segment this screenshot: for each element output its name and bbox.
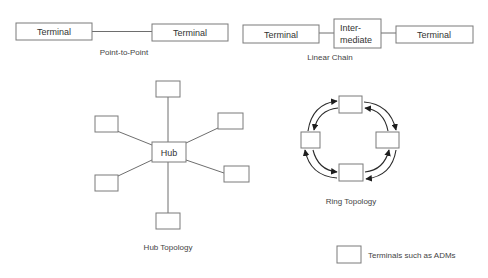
ring-arrow-inner-bl xyxy=(313,150,337,172)
hub-spoke-lower-right xyxy=(186,160,224,173)
ring-arrow-outer-bl xyxy=(305,150,337,178)
ring-topology-group: Ring Topology xyxy=(301,96,399,206)
hub-terminal-upper-left xyxy=(95,116,118,132)
p2p-terminal-b-label: Terminal xyxy=(173,28,207,38)
ring-arrow-inner-br xyxy=(365,150,389,172)
hub-terminal-bottom xyxy=(156,213,180,229)
hub-terminal-lower-right xyxy=(224,166,249,182)
ring-node-bottom xyxy=(339,164,363,181)
legend: Terminals such as ADMs xyxy=(337,246,456,263)
legend-text: Terminals such as ADMs xyxy=(368,251,456,260)
ring-node-left xyxy=(301,132,320,148)
ring-node-right xyxy=(376,132,399,148)
linear-chain-group: Terminal Inter- mediate Terminal Linear … xyxy=(243,19,473,62)
p2p-caption: Point-to-Point xyxy=(100,48,149,57)
ring-caption: Ring Topology xyxy=(326,197,377,206)
hub-terminal-upper-right xyxy=(218,113,243,129)
ring-arrow-inner-tl xyxy=(314,108,338,130)
chain-terminal-b-label: Terminal xyxy=(417,30,451,40)
hub-terminal-top xyxy=(156,81,180,97)
p2p-terminal-a-label: Terminal xyxy=(37,27,71,37)
hub-label: Hub xyxy=(161,148,178,158)
hub-spoke-upper-right xyxy=(186,128,218,143)
chain-intermediate-label-1: Inter- xyxy=(340,23,361,33)
legend-terminal-swatch xyxy=(337,246,361,263)
ring-arrow-outer-tr xyxy=(364,102,396,130)
hub-spoke-upper-left xyxy=(117,131,152,145)
ring-arrow-outer-tl xyxy=(308,101,337,131)
hub-spoke-lower-left xyxy=(118,160,152,176)
hub-topology-group: Hub Hub Topology xyxy=(95,81,249,252)
hub-terminal-lower-left xyxy=(95,175,118,191)
point-to-point-group: Terminal Terminal Point-to-Point xyxy=(16,23,228,57)
ring-arrow-inner-tr xyxy=(365,108,388,131)
chain-intermediate-label-2: mediate xyxy=(340,35,372,45)
topology-diagram: Terminal Terminal Point-to-Point Termina… xyxy=(0,0,488,278)
chain-terminal-a-label: Terminal xyxy=(264,30,298,40)
chain-caption: Linear Chain xyxy=(307,53,352,62)
hub-caption: Hub Topology xyxy=(144,243,193,252)
ring-node-top xyxy=(339,96,362,113)
